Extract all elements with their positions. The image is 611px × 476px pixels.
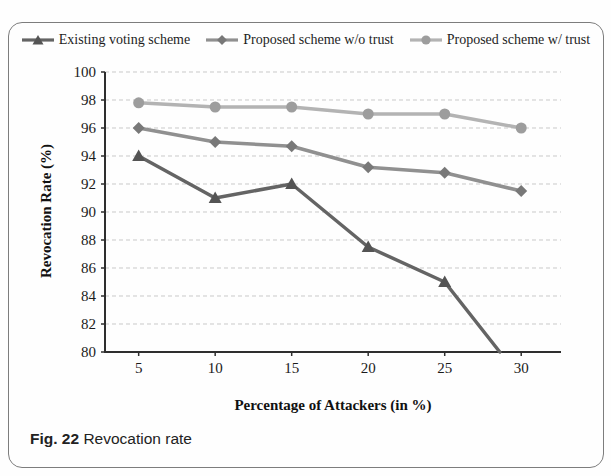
y-tick-label: 80 xyxy=(81,344,96,360)
circle-marker-icon xyxy=(516,123,527,134)
figure-caption-text: Revocation rate xyxy=(83,430,192,447)
diamond-marker-icon xyxy=(515,185,527,197)
circle-marker-icon xyxy=(210,102,221,113)
diamond-marker-icon xyxy=(439,167,451,179)
y-tick-label: 94 xyxy=(81,148,97,164)
y-tick-label: 90 xyxy=(81,204,96,220)
circle-marker-icon xyxy=(439,109,450,120)
figure-caption-label: Fig. 22 xyxy=(30,430,79,447)
y-tick-label: 92 xyxy=(81,176,96,192)
circle-marker-icon xyxy=(363,109,374,120)
series-line xyxy=(139,156,500,352)
y-tick-label: 88 xyxy=(81,232,96,248)
diamond-marker-icon xyxy=(209,136,221,148)
y-tick-label: 86 xyxy=(81,260,97,276)
y-tick-label: 82 xyxy=(81,316,96,332)
diamond-marker-icon xyxy=(286,140,298,152)
circle-marker-icon xyxy=(133,97,144,108)
x-tick-label: 5 xyxy=(135,360,143,376)
circle-marker-icon xyxy=(286,102,297,113)
x-tick-label: 10 xyxy=(208,360,223,376)
diamond-marker-icon xyxy=(362,161,374,173)
x-axis-title: Percentage of Attackers (in %) xyxy=(234,397,431,414)
series-line xyxy=(139,128,522,191)
figure-caption: Fig. 22 Revocation rate xyxy=(30,430,192,448)
y-tick-label: 100 xyxy=(74,64,97,80)
y-axis-title: Revocation Rate (%) xyxy=(38,144,55,278)
y-tick-label: 96 xyxy=(81,120,97,136)
diamond-marker-icon xyxy=(133,122,145,134)
x-tick-label: 20 xyxy=(361,360,376,376)
x-tick-label: 25 xyxy=(437,360,452,376)
y-tick-label: 98 xyxy=(81,92,96,108)
figure-page: Existing voting scheme Proposed scheme w… xyxy=(0,0,611,476)
series-line xyxy=(139,103,522,128)
x-tick-label: 30 xyxy=(514,360,529,376)
triangle-marker-icon xyxy=(132,150,145,162)
y-tick-label: 84 xyxy=(81,288,97,304)
x-tick-label: 15 xyxy=(284,360,299,376)
